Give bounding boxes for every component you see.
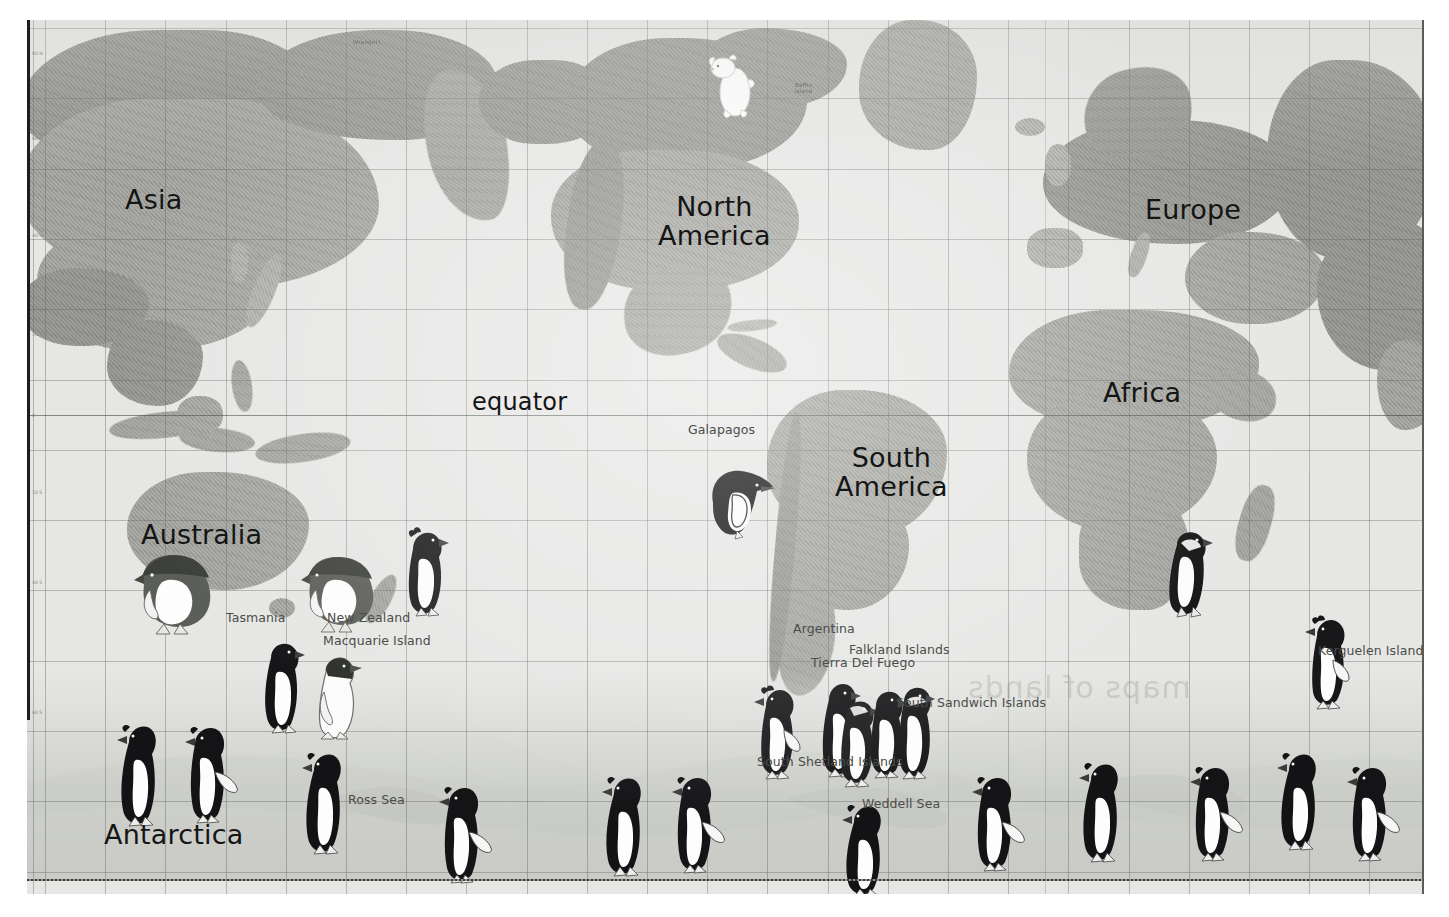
micro-label-baffin-island: Baffin Island	[795, 82, 813, 95]
place-label-tasmania: Tasmania	[226, 610, 285, 625]
polar-bear-icon[interactable]	[705, 48, 761, 120]
emperor-penguin-icon-3[interactable]	[600, 772, 646, 878]
king-penguin-icon-tasmania[interactable]	[259, 636, 305, 734]
land-indochina	[107, 320, 203, 406]
lat-tick-0: 80 N	[32, 51, 43, 56]
micro-label-wrangel-island: Wrangel I.	[353, 39, 383, 45]
land-uk	[1045, 144, 1071, 186]
adelie-penguin-icon-2[interactable]	[437, 782, 495, 884]
lat-tick-1: 60 N	[32, 136, 43, 141]
yellow-eyed-penguin-icon[interactable]	[310, 652, 364, 740]
continent-label-north-america: North America	[658, 192, 771, 250]
land-new-guinea	[254, 427, 353, 468]
adelie-penguin-icon-6[interactable]	[1345, 762, 1403, 862]
place-label-kerguelen-islands: Kerguelen Islands	[1318, 643, 1424, 658]
lat-tick-3: 20 N	[32, 332, 43, 337]
land-turkey-mideast	[1185, 232, 1325, 324]
lat-tick-4: 0	[32, 413, 35, 418]
adelie-penguin-icon-5[interactable]	[1188, 762, 1246, 862]
emperor-penguin-icon-6[interactable]	[1275, 748, 1321, 852]
macaroni-penguin-icon[interactable]	[1303, 614, 1355, 704]
place-label-macquarie-island: Macquarie Island	[323, 633, 431, 648]
galapagos-penguin-icon[interactable]	[707, 457, 777, 541]
land-india-east-edge	[1377, 340, 1424, 430]
emperor-penguin-icon-2[interactable]	[300, 748, 346, 856]
continent-label-africa: Africa	[1103, 378, 1181, 407]
little-penguin-icon-1[interactable]	[132, 546, 216, 636]
land-korea	[231, 242, 248, 282]
place-label-new-zealand: New Zealand	[327, 610, 410, 625]
place-label-south-sandwich-islands: South Sandwich Islands	[896, 695, 1046, 710]
map-frame-bottom	[27, 879, 1424, 881]
land-rockies	[555, 137, 632, 313]
land-iceland	[1015, 118, 1045, 136]
place-label-ross-sea: Ross Sea	[348, 792, 405, 807]
map-frame-right	[1422, 20, 1424, 894]
continent-label-australia: Australia	[141, 520, 262, 549]
continent-label-europe: Europe	[1145, 195, 1241, 224]
land-iberia	[1027, 228, 1083, 268]
adelie-penguin-icon-4[interactable]	[970, 772, 1028, 872]
fiordland-penguin-icon[interactable]	[403, 525, 451, 617]
land-greenland	[859, 20, 977, 150]
place-label-south-shetland-islands: South Shetland Islands	[757, 754, 903, 769]
land-cuba	[727, 317, 778, 333]
emperor-penguin-icon-5[interactable]	[1077, 758, 1123, 864]
place-label-tierra-del-fuego: Tierra Del Fuego	[811, 655, 915, 670]
adelie-penguin-icon-3[interactable]	[670, 772, 728, 874]
equator-label: equator	[472, 388, 567, 416]
continent-label-asia: Asia	[125, 185, 182, 214]
land-borneo	[177, 396, 223, 434]
lat-tick-7: 60 S	[32, 710, 42, 715]
adelie-penguin-icon-1[interactable]	[183, 722, 241, 824]
continent-label-south-america: South America	[835, 443, 948, 501]
lat-tick-6: 40 S	[32, 580, 42, 585]
place-label-weddell-sea: Weddell Sea	[862, 796, 940, 811]
world-map[interactable]: maps of lands Asia North America Europe …	[27, 20, 1424, 894]
land-central-america	[712, 325, 792, 381]
land-philippines	[228, 359, 255, 413]
lat-tick-2: 40 N	[32, 233, 43, 238]
place-label-argentina: Argentina	[793, 621, 855, 636]
land-madagascar	[1229, 481, 1281, 565]
equator-line	[27, 415, 1424, 416]
emperor-penguin-icon-1[interactable]	[115, 720, 161, 828]
map-frame-left	[27, 20, 30, 720]
lat-tick-5: 20 S	[32, 490, 42, 495]
place-label-galapagos: Galapagos	[688, 422, 755, 437]
screenshot-root: maps of lands Asia North America Europe …	[0, 0, 1449, 917]
continent-label-antarctica: Antarctica	[104, 820, 244, 849]
african-penguin-icon[interactable]	[1159, 525, 1215, 619]
